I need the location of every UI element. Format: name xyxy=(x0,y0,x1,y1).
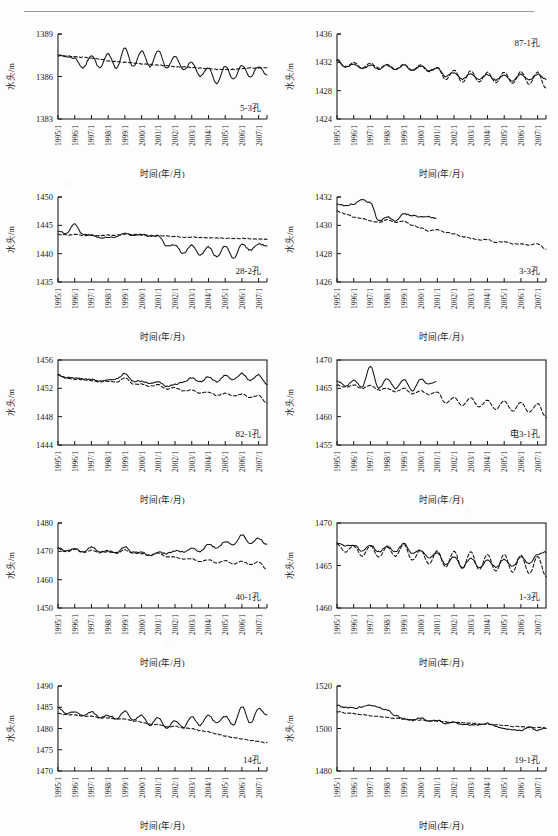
y-tick-label: 1470 xyxy=(36,766,53,776)
x-tick-label: 1995/1 xyxy=(333,288,342,309)
y-tick-label: 1450 xyxy=(36,192,53,202)
x-tick-label: 1995/1 xyxy=(333,614,342,635)
panel-id-label: 14孔 xyxy=(243,755,261,765)
x-tick-label: 2003/1 xyxy=(188,614,197,635)
chart-svg: 1480150015201995/11996/11997/11998/11999… xyxy=(279,670,558,833)
y-tick-label: 1383 xyxy=(36,114,53,124)
plot-4: 14441448145214561995/11996/11997/11998/1… xyxy=(0,344,279,507)
x-tick-label: 2004/1 xyxy=(483,288,492,309)
x-tick-label: 2000/1 xyxy=(138,451,147,472)
x-tick-label: 1997/1 xyxy=(366,125,375,146)
x-tick-label: 2003/1 xyxy=(188,451,197,472)
x-tick-label: 2002/1 xyxy=(171,777,180,798)
x-tick-label: 2005/1 xyxy=(500,614,509,635)
x-tick-label: 2001/1 xyxy=(154,451,163,472)
x-tick-label: 2007/1 xyxy=(534,777,543,798)
panel-id-label: 19-1孔 xyxy=(515,755,541,765)
plot-2: 14351440144514501995/11996/11997/11998/1… xyxy=(0,181,279,344)
x-tick-label: 2003/1 xyxy=(467,614,476,635)
x-tick-label: 2001/1 xyxy=(433,125,442,146)
x-tick-label: 2007/1 xyxy=(255,777,264,798)
x-tick-label: 2004/1 xyxy=(204,777,213,798)
x-tick-label: 1995/1 xyxy=(333,777,342,798)
chart-svg: 14441448145214561995/11996/11997/11998/1… xyxy=(0,344,279,507)
x-tick-label: 2003/1 xyxy=(188,777,197,798)
x-tick-label: 2005/1 xyxy=(221,288,230,309)
plot-0: 1383138613891995/11996/11997/11998/11999… xyxy=(0,18,279,181)
x-tick-label: 1995/1 xyxy=(333,125,342,146)
y-tick-label: 1465 xyxy=(315,383,332,393)
y-tick-label: 1460 xyxy=(315,412,332,422)
chart-panel: 1480150015201995/11996/11997/11998/11999… xyxy=(279,670,558,833)
panel-id-label: 40-1孔 xyxy=(236,592,262,602)
y-tick-label: 1428 xyxy=(315,249,332,259)
x-tick-label: 1995/1 xyxy=(333,451,342,472)
y-axis-label: 水头/m xyxy=(284,63,295,90)
y-tick-label: 1520 xyxy=(315,681,332,691)
x-tick-label: 2004/1 xyxy=(204,614,213,635)
x-tick-label: 2000/1 xyxy=(417,614,426,635)
plot-9: 1480150015201995/11996/11997/11998/11999… xyxy=(279,670,558,833)
x-tick-label: 2004/1 xyxy=(204,125,213,146)
x-tick-label: 2006/1 xyxy=(517,451,526,472)
y-tick-label: 1435 xyxy=(36,277,53,287)
y-axis-label: 水头/m xyxy=(5,63,16,90)
x-tick-label: 2006/1 xyxy=(238,451,247,472)
y-tick-label: 1444 xyxy=(36,440,54,450)
x-tick-label: 2007/1 xyxy=(534,125,543,146)
panel-id-label: 电3-1孔 xyxy=(510,428,540,439)
x-tick-label: 1999/1 xyxy=(121,614,130,635)
y-tick-label: 1452 xyxy=(36,383,53,393)
x-tick-label: 2004/1 xyxy=(483,614,492,635)
x-tick-label: 1997/1 xyxy=(87,125,96,146)
x-tick-label: 1997/1 xyxy=(366,288,375,309)
y-axis-label: 水头/m xyxy=(284,552,295,579)
y-axis-label: 水头/m xyxy=(284,389,295,416)
observed-series-line xyxy=(337,543,546,568)
x-tick-label: 1996/1 xyxy=(71,614,80,635)
y-tick-label: 1470 xyxy=(315,518,332,528)
x-tick-label: 2001/1 xyxy=(154,614,163,635)
panel-id-label: 82-1孔 xyxy=(236,429,262,439)
x-tick-label: 2005/1 xyxy=(500,125,509,146)
x-tick-label: 2007/1 xyxy=(534,614,543,635)
y-tick-label: 1480 xyxy=(36,724,53,734)
x-tick-label: 1998/1 xyxy=(104,125,113,146)
chart-svg: 14501460147014801995/11996/11997/11998/1… xyxy=(0,507,279,670)
x-tick-label: 2007/1 xyxy=(534,451,543,472)
simulated-series-line xyxy=(337,544,546,577)
x-tick-label: 1995/1 xyxy=(54,451,63,472)
y-axis-label: 水头/m xyxy=(284,715,295,742)
x-tick-label: 1996/1 xyxy=(350,614,359,635)
x-tick-label: 2005/1 xyxy=(221,777,230,798)
x-tick-label: 2006/1 xyxy=(517,614,526,635)
x-axis-label: 时间(年/月) xyxy=(419,820,463,831)
simulated-series-line xyxy=(337,211,546,249)
x-tick-label: 2006/1 xyxy=(238,777,247,798)
chart-panel: 1383138613891995/11996/11997/11998/11999… xyxy=(0,18,279,181)
y-axis-label: 水头/m xyxy=(5,389,16,416)
x-tick-label: 1997/1 xyxy=(87,614,96,635)
x-tick-label: 2006/1 xyxy=(238,288,247,309)
plot-axes xyxy=(58,686,267,771)
x-tick-label: 1999/1 xyxy=(400,777,409,798)
x-tick-label: 1998/1 xyxy=(383,777,392,798)
x-axis-label: 时间(年/月) xyxy=(140,820,184,831)
x-tick-label: 2001/1 xyxy=(433,777,442,798)
x-tick-label: 2003/1 xyxy=(467,288,476,309)
x-tick-label: 1999/1 xyxy=(121,451,130,472)
x-tick-label: 1995/1 xyxy=(54,288,63,309)
x-tick-label: 2002/1 xyxy=(450,777,459,798)
x-axis-label: 时间(年/月) xyxy=(419,657,463,668)
simulated-series-line xyxy=(337,60,546,88)
x-tick-label: 1999/1 xyxy=(121,777,130,798)
x-tick-label: 2001/1 xyxy=(154,288,163,309)
simulated-series-line xyxy=(337,385,546,418)
y-axis-label: 水头/m xyxy=(5,715,16,742)
chart-svg: 14261428143014321995/11996/11997/11998/1… xyxy=(279,181,558,344)
y-tick-label: 1424 xyxy=(315,114,333,124)
x-tick-label: 2004/1 xyxy=(204,288,213,309)
x-tick-label: 2002/1 xyxy=(450,614,459,635)
x-tick-label: 1998/1 xyxy=(383,451,392,472)
x-tick-label: 2003/1 xyxy=(467,451,476,472)
